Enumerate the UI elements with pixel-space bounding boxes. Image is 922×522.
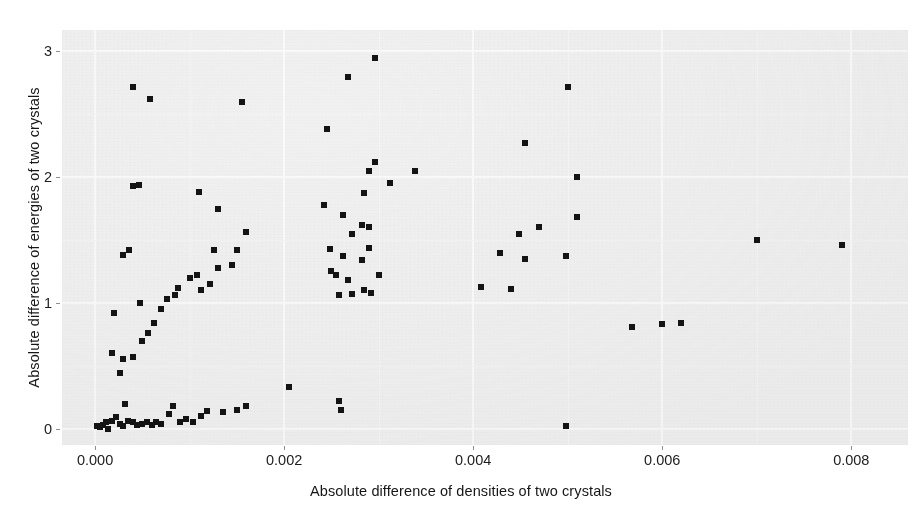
y-tick-mark-1 bbox=[56, 303, 60, 304]
data-point bbox=[145, 330, 151, 336]
data-point bbox=[229, 262, 235, 268]
data-point bbox=[286, 384, 292, 390]
data-point bbox=[234, 407, 240, 413]
data-point bbox=[239, 99, 245, 105]
gridline-x-0 bbox=[94, 30, 96, 445]
data-point bbox=[194, 272, 200, 278]
data-point bbox=[366, 168, 372, 174]
data-point bbox=[349, 291, 355, 297]
data-point bbox=[172, 292, 178, 298]
data-point bbox=[659, 321, 665, 327]
x-tick-mark-4 bbox=[851, 446, 852, 450]
data-point bbox=[340, 253, 346, 259]
y-axis-title: Absolute difference of energies of two c… bbox=[26, 30, 48, 445]
gridline-y-minor-2 bbox=[62, 114, 908, 115]
data-point bbox=[372, 55, 378, 61]
data-point bbox=[147, 96, 153, 102]
data-point bbox=[387, 180, 393, 186]
data-point bbox=[478, 284, 484, 290]
data-point bbox=[361, 287, 367, 293]
data-point bbox=[198, 287, 204, 293]
data-point bbox=[372, 159, 378, 165]
x-tick-label-1: 0.002 bbox=[266, 452, 302, 468]
data-point bbox=[508, 286, 514, 292]
data-point bbox=[243, 229, 249, 235]
data-point bbox=[340, 212, 346, 218]
data-point bbox=[117, 370, 123, 376]
data-point bbox=[204, 408, 210, 414]
data-point bbox=[111, 310, 117, 316]
data-point bbox=[170, 403, 176, 409]
data-point bbox=[336, 398, 342, 404]
plot-panel bbox=[62, 30, 908, 445]
data-point bbox=[412, 168, 418, 174]
x-tick-label-3: 0.006 bbox=[644, 452, 680, 468]
data-point bbox=[105, 426, 111, 432]
gridline-x-2 bbox=[472, 30, 474, 445]
gridline-y-minor-0 bbox=[62, 366, 908, 367]
x-tick-label-2: 0.004 bbox=[455, 452, 491, 468]
data-point bbox=[187, 275, 193, 281]
data-point bbox=[126, 247, 132, 253]
data-point bbox=[516, 231, 522, 237]
data-point bbox=[361, 190, 367, 196]
data-point bbox=[359, 222, 365, 228]
data-point bbox=[574, 174, 580, 180]
data-point bbox=[345, 74, 351, 80]
data-point bbox=[243, 403, 249, 409]
data-point bbox=[130, 84, 136, 90]
data-point bbox=[366, 224, 372, 230]
x-tick-label-4: 0.008 bbox=[833, 452, 869, 468]
data-point bbox=[109, 350, 115, 356]
data-point bbox=[166, 411, 172, 417]
gridline-x-minor-0 bbox=[190, 30, 191, 445]
data-point bbox=[151, 320, 157, 326]
data-point bbox=[522, 140, 528, 146]
data-point bbox=[207, 281, 213, 287]
data-point bbox=[196, 189, 202, 195]
data-point bbox=[338, 407, 344, 413]
x-tick-mark-2 bbox=[473, 446, 474, 450]
data-point bbox=[164, 296, 170, 302]
data-point bbox=[678, 320, 684, 326]
data-point bbox=[368, 290, 374, 296]
data-point bbox=[563, 423, 569, 429]
data-point bbox=[158, 306, 164, 312]
data-point bbox=[522, 256, 528, 262]
data-point bbox=[183, 416, 189, 422]
gridline-y-3 bbox=[62, 50, 908, 52]
gridline-y-minor-1 bbox=[62, 240, 908, 241]
data-point bbox=[190, 419, 196, 425]
x-tick-label-0: 0.000 bbox=[77, 452, 113, 468]
data-point bbox=[215, 206, 221, 212]
gridline-y-0 bbox=[62, 428, 908, 430]
x-tick-mark-1 bbox=[284, 446, 285, 450]
data-point bbox=[629, 324, 635, 330]
data-point bbox=[349, 231, 355, 237]
gridline-x-3 bbox=[661, 30, 663, 445]
data-point bbox=[324, 126, 330, 132]
y-tick-mark-2 bbox=[56, 177, 60, 178]
data-point bbox=[113, 414, 119, 420]
data-point bbox=[139, 338, 145, 344]
data-point bbox=[328, 268, 334, 274]
x-tick-mark-0 bbox=[95, 446, 96, 450]
scatter-plot-figure: 0.0000.0020.0040.0060.008 0123 Absolute … bbox=[0, 0, 922, 522]
data-point bbox=[175, 285, 181, 291]
y-tick-mark-3 bbox=[56, 51, 60, 52]
data-point bbox=[136, 182, 142, 188]
gridline-x-minor-2 bbox=[568, 30, 569, 445]
data-point bbox=[754, 237, 760, 243]
y-tick-mark-0 bbox=[56, 429, 60, 430]
data-point bbox=[565, 84, 571, 90]
data-point bbox=[359, 257, 365, 263]
data-point bbox=[839, 242, 845, 248]
data-point bbox=[327, 246, 333, 252]
data-point bbox=[220, 409, 226, 415]
data-point bbox=[336, 292, 342, 298]
data-point bbox=[536, 224, 542, 230]
data-point bbox=[366, 245, 372, 251]
data-point bbox=[497, 250, 503, 256]
gridline-x-4 bbox=[850, 30, 852, 445]
data-point bbox=[120, 356, 126, 362]
